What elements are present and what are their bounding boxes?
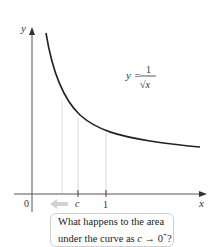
- svg-text:1: 1: [146, 64, 151, 75]
- origin-label: 0: [24, 198, 29, 209]
- svg-text:√x: √x: [140, 79, 150, 90]
- y-axis-arrow-icon: [29, 27, 35, 35]
- callout-line-2: under the curve as c → 0+?: [58, 229, 173, 245]
- tick-label-1: 1: [103, 199, 108, 210]
- equation-label: y = 1 √x: [125, 64, 156, 90]
- question-callout: What happens to the area under the curve…: [50, 213, 174, 247]
- x-axis-label: x: [198, 197, 204, 209]
- tick-label-c: c: [75, 198, 80, 209]
- curve-one-over-sqrt-x: [46, 33, 200, 147]
- y-axis-label: y: [20, 22, 26, 34]
- svg-text:y =: y =: [125, 69, 141, 81]
- left-arrow-icon: [50, 199, 68, 209]
- callout-line-1: What happens to the area: [58, 216, 173, 229]
